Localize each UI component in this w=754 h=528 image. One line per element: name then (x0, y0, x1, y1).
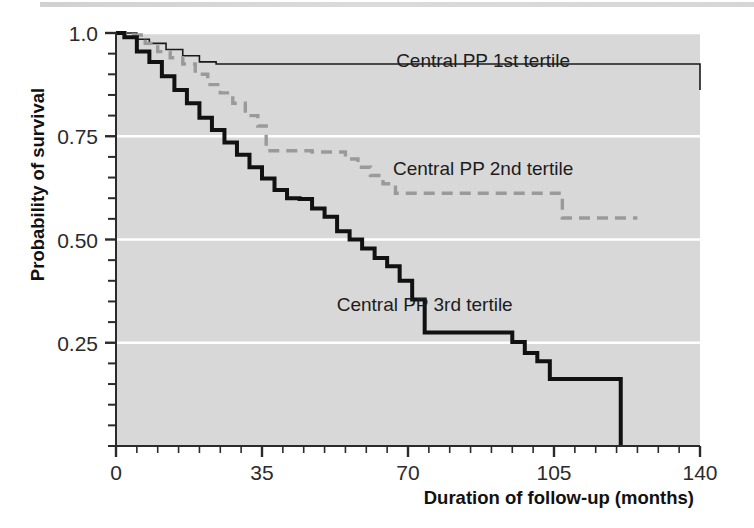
series-label-1: Central PP 1st tertile (396, 50, 570, 71)
y-tick-label: 1.0 (69, 22, 98, 45)
x-tick-label: 35 (250, 461, 273, 484)
y-tick-label: 0.75 (57, 125, 98, 148)
y-axis-title: Probability of survival (27, 88, 48, 281)
x-axis-title: Duration of follow-up (months) (424, 487, 694, 508)
x-tick-label: 70 (396, 461, 419, 484)
x-tick-label: 140 (682, 461, 717, 484)
y-tick-label: 0.50 (57, 229, 98, 252)
figure-root: 0.250.500.751.003570105140 Central PP 1s… (0, 0, 754, 528)
series-label-2: Central PP 2nd tertile (393, 158, 573, 179)
y-tick-label: 0.25 (57, 332, 98, 355)
series-label-3: Central PP 3rd tertile (337, 294, 513, 315)
x-tick-label: 0 (110, 461, 122, 484)
x-tick-label: 105 (536, 461, 571, 484)
kaplan-meier-chart: 0.250.500.751.003570105140 Central PP 1s… (0, 0, 754, 528)
